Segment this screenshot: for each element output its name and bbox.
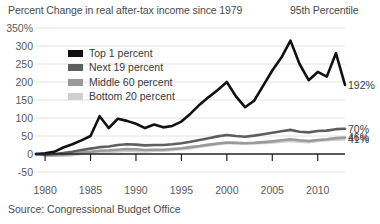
legend-item-middle-60-percent[interactable]: Middle 60 percent [68,75,198,90]
chart-figure: Percent Change in real after-tax income … [0,0,380,224]
legend-item-next-19-percent[interactable]: Next 19 percent [68,61,198,76]
x-tick-label: 2005 [255,184,289,196]
chart-legend: Top 1 percentNext 19 percentMiddle 60 pe… [68,46,198,104]
legend-label: Bottom 20 percent [89,91,175,102]
x-tick-label: 1980 [28,184,62,196]
x-axis: 1980198519901995200020052010 [0,184,380,198]
legend-swatch [68,50,83,57]
legend-label: Middle 60 percent [89,77,172,88]
x-tick-label: 2000 [210,184,244,196]
legend-swatch [68,79,83,86]
x-tick-label: 2010 [301,184,335,196]
legend-swatch [68,93,83,100]
x-tick-label: 1995 [164,184,198,196]
page-title: Percent Change in real after-tax income … [8,4,242,16]
legend-item-bottom-20-percent[interactable]: Bottom 20 percent [68,90,198,105]
legend-label: Next 19 percent [89,62,163,73]
x-tick-marks [45,154,318,161]
percentile-note: 95th Percentile [290,4,359,16]
source-caption: Source: Congressional Budget Office [8,203,181,215]
end-label-top1: 192% [348,79,375,91]
legend-swatch [68,64,83,71]
x-tick-label: 1985 [74,184,108,196]
end-label-bottom20: 41% [348,133,369,145]
legend-label: Top 1 percent [89,48,153,59]
x-tick-label: 1990 [119,184,153,196]
legend-item-top-1-percent[interactable]: Top 1 percent [68,46,198,61]
